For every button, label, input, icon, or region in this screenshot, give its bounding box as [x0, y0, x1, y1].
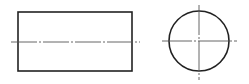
cylinder-projection-drawing — [0, 0, 249, 84]
front-view-rectangle — [18, 12, 132, 71]
